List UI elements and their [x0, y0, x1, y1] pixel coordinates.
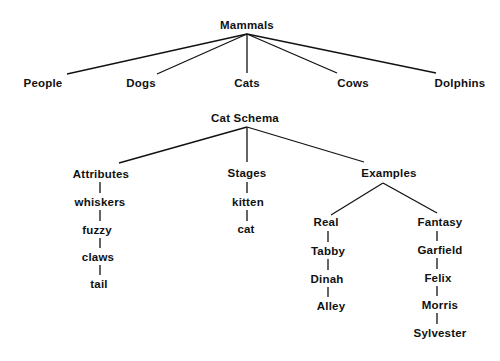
node-cows: Cows: [337, 77, 368, 89]
node-alley: Alley: [317, 300, 346, 312]
node-fuzzy: fuzzy: [82, 224, 112, 236]
node-cat: cat: [237, 223, 254, 235]
node-cats: Cats: [234, 77, 260, 89]
node-mammals: Mammals: [220, 19, 274, 31]
node-claws: claws: [82, 251, 114, 263]
node-garfield: Garfield: [417, 244, 462, 256]
node-kitten: kitten: [232, 196, 264, 208]
node-tabby: Tabby: [311, 245, 345, 257]
node-sylvester: Sylvester: [414, 327, 467, 339]
node-dolphins: Dolphins: [435, 77, 486, 89]
node-real: Real: [313, 216, 338, 228]
node-dogs: Dogs: [126, 77, 156, 89]
node-felix: Felix: [424, 272, 451, 284]
node-whiskers: whiskers: [75, 196, 126, 208]
node-morris: Morris: [422, 299, 458, 311]
node-stages: Stages: [228, 167, 267, 179]
node-cat-schema: Cat Schema: [211, 112, 279, 124]
node-tail: tail: [90, 278, 107, 290]
diagram-canvas: Mammals People Dogs Cats Cows Dolphins C…: [0, 0, 500, 361]
node-fantasy: Fantasy: [418, 216, 463, 228]
node-examples: Examples: [361, 167, 416, 179]
node-dinah: Dinah: [311, 273, 344, 285]
node-people: People: [24, 77, 63, 89]
node-attributes: Attributes: [73, 168, 129, 180]
